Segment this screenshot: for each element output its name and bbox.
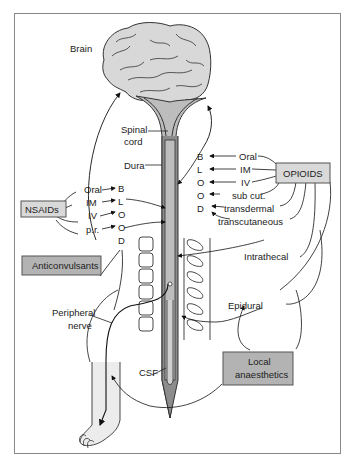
label-epidural: Epidural	[228, 300, 263, 311]
arrow-blood-to-brain-right	[204, 106, 211, 146]
opioid-route-oral: Oral	[239, 151, 257, 162]
blood-right-b: B	[197, 151, 203, 162]
nsaids-label: NSAIDs	[25, 204, 59, 215]
opioid-route-transcutaneous: transcutaneous	[218, 216, 283, 227]
label-spinal-cord-1: Spinal	[121, 124, 147, 135]
opioid-route-subcut: sub cut.	[232, 190, 265, 201]
label-peripheral-nerve-2: nerve	[68, 320, 92, 331]
anticonvulsants-label: Anticonvulsants	[32, 260, 99, 271]
opioids-label: OPIOIDS	[283, 168, 323, 179]
blood-left-l: L	[118, 196, 123, 207]
brain-illustration	[103, 23, 211, 104]
nsaid-route-oral: Oral	[84, 184, 102, 195]
label-dura: Dura	[124, 160, 145, 171]
blood-right-d: D	[197, 203, 204, 214]
blood-left-o2: O	[118, 222, 125, 233]
blood-right-o1: O	[197, 177, 204, 188]
nsaid-route-pr: p.r.	[86, 224, 99, 235]
blood-left-d: D	[118, 235, 125, 246]
label-spinal-cord-2: cord	[124, 136, 142, 147]
blood-left-o1: O	[118, 209, 125, 220]
blood-left-b: B	[118, 183, 124, 194]
blood-right-l: L	[197, 164, 202, 175]
nsaid-route-iv: IV	[88, 210, 98, 221]
opioid-route-im: IM	[240, 164, 251, 175]
label-peripheral-nerve-1: Peripheral	[52, 307, 95, 318]
local-anaesthetics-label-2: anaesthetics	[235, 369, 289, 380]
label-intrathecal: Intrathecal	[244, 251, 288, 262]
opioid-route-iv: IV	[241, 177, 251, 188]
label-csf: CSF	[139, 367, 158, 378]
opioid-route-transdermal: transdermal	[224, 203, 274, 214]
blood-right-o2: O	[197, 190, 204, 201]
nsaid-route-im: IM	[86, 197, 97, 208]
vertebrae-left	[139, 237, 153, 331]
analgesic-routes-diagram: Brain Spinal cord Dura Peripheral nerve …	[0, 0, 355, 471]
label-brain: Brain	[70, 43, 92, 54]
local-anaesthetics-label-1: Local	[248, 356, 271, 367]
